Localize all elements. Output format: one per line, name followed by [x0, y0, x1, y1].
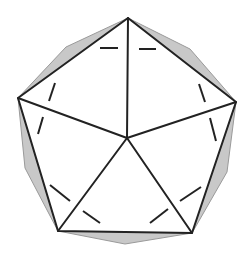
diagram-canvas: [0, 0, 251, 254]
spoke-top: [127, 18, 128, 138]
pentagonal-pyramid-diagram: [0, 0, 251, 254]
